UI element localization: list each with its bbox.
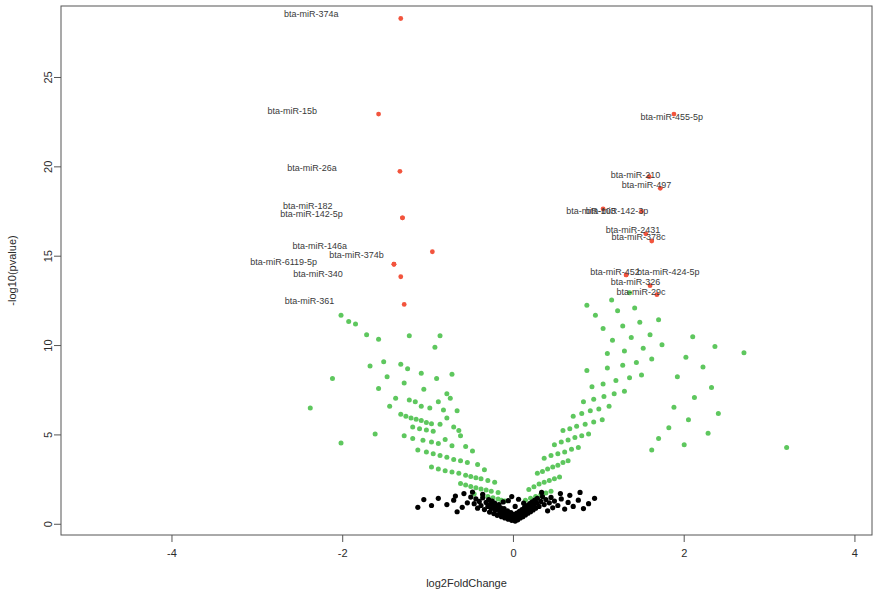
data-point-moderate [569,447,574,452]
data-point-moderate [547,478,552,483]
data-point-moderate [607,404,612,409]
data-point-moderate [407,333,412,338]
data-point-moderate [398,412,403,417]
y-tick-label: 15 [42,250,54,262]
volcano-plot-svg: -4-2024 0510152025 bta-miR-374abta-miR-4… [0,0,877,602]
data-point-not_significant [513,504,518,509]
y-axis-ticks: 0510152025 [42,71,61,527]
data-point-not_significant [455,509,460,514]
data-point-moderate [634,360,639,365]
data-point-not_significant [552,498,557,503]
data-point-moderate [584,303,589,308]
data-point-moderate [741,350,746,355]
data-point-moderate [542,456,547,461]
data-point-moderate [432,345,437,350]
data-point-moderate [609,297,614,302]
data-point-moderate [376,386,381,391]
data-point-moderate [583,422,588,427]
data-point-not_significant [501,499,506,504]
data-point-highlighted [402,302,407,307]
data-point-moderate [458,481,463,486]
data-point-moderate [339,313,344,318]
data-point-moderate [407,398,412,403]
data-point-moderate [615,308,620,313]
data-point-moderate [610,338,615,343]
data-point-moderate [627,375,632,380]
data-point-not_significant [547,500,552,505]
data-point-moderate [465,460,470,465]
data-point-moderate [550,465,555,470]
data-point-moderate [591,397,596,402]
data-point-not_significant [542,502,547,507]
data-point-moderate [419,371,424,376]
data-point-moderate [482,467,487,472]
data-point-moderate [434,376,439,381]
data-point-not_significant [545,508,550,513]
plot-frame [61,6,872,535]
data-point-moderate [574,424,579,429]
data-point-moderate [376,337,381,342]
data-point-moderate [566,437,571,442]
gene-label: bta-miR-210 [611,170,661,180]
data-point-moderate [458,458,463,463]
data-point-moderate [431,429,436,434]
data-point-moderate [364,332,369,337]
data-point-moderate [415,448,420,453]
data-point-highlighted [430,249,435,254]
data-point-moderate [492,480,497,485]
data-point-moderate [441,407,446,412]
data-point-moderate [496,490,501,495]
data-point-moderate [456,428,461,433]
data-point-moderate [605,365,610,370]
data-point-not_significant [571,504,576,509]
data-point-moderate [545,466,550,471]
data-point-moderate [555,451,560,456]
data-point-moderate [443,437,448,442]
data-point-moderate [410,424,415,429]
data-point-moderate [463,444,468,449]
data-point-moderate [451,424,456,429]
data-point-moderate [353,322,358,327]
data-point-moderate [438,453,443,458]
data-point-moderate [571,414,576,419]
data-point-moderate [420,438,425,443]
data-point-not_significant [460,505,465,510]
data-point-moderate [567,426,572,431]
data-point-moderate [601,394,606,399]
data-point-moderate [675,374,680,379]
data-point-moderate [549,453,554,458]
x-axis-title: log2FoldChange [426,577,507,589]
data-point-moderate [641,346,646,351]
data-point-moderate [436,399,441,404]
data-point-moderate [593,313,598,318]
x-axis-ticks: -4-2024 [167,535,858,559]
data-point-moderate [622,389,627,394]
data-point-moderate [639,373,644,378]
data-point-not_significant [555,503,560,508]
x-tick-label: -4 [167,547,177,559]
data-point-moderate [656,436,661,441]
data-point-moderate [613,378,618,383]
data-point-moderate [537,482,542,487]
y-tick-label: 5 [42,432,54,438]
data-point-moderate [560,460,565,465]
data-point-moderate [414,417,419,422]
data-point-moderate [682,442,687,447]
data-point-moderate [373,432,378,437]
data-point-moderate [468,484,473,489]
data-point-moderate [622,348,627,353]
volcano-plot-container: -4-2024 0510152025 bta-miR-374abta-miR-4… [0,0,877,602]
data-point-highlighted [398,16,403,21]
data-point-not_significant [550,505,555,510]
gene-label: bta-miR-340 [293,269,343,279]
data-point-not_significant [539,490,544,495]
data-point-moderate [579,411,584,416]
data-point-moderate [419,404,424,409]
data-point-moderate [385,374,390,379]
data-point-moderate [427,406,432,411]
data-point-highlighted [392,262,397,267]
gene-label: bta-miR-26a [287,163,337,173]
data-point-not_significant [444,502,449,507]
data-point-moderate [659,342,664,347]
data-point-moderate [455,408,460,413]
